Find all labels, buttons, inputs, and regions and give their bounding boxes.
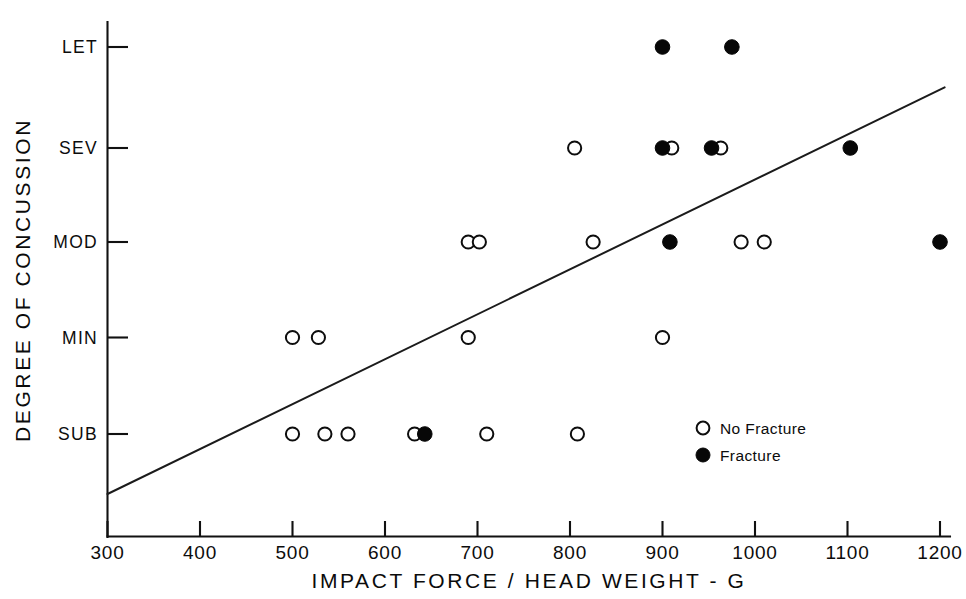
chart-legend: No FractureFracture <box>696 420 806 464</box>
data-point-no-fracture <box>318 427 331 440</box>
x-axis-title: IMPACT FORCE / HEAD WEIGHT - G <box>311 569 746 592</box>
y-axis-ticks <box>108 47 129 434</box>
legend-marker-no-fracture <box>697 422 710 435</box>
x-tick-label-600: 600 <box>368 542 402 563</box>
data-point-fracture <box>663 235 678 250</box>
data-point-no-fracture <box>286 427 299 440</box>
data-point-no-fracture <box>480 427 493 440</box>
y-axis: SUBMINMODSEVLET <box>53 22 128 537</box>
y-axis-tick-labels: SUBMINMODSEVLET <box>53 37 98 444</box>
x-tick-label-700: 700 <box>460 542 494 563</box>
scatter-chart: SUBMINMODSEVLET 300400500600700800900100… <box>0 0 966 599</box>
plot-canvas: SUBMINMODSEVLET 300400500600700800900100… <box>0 0 966 599</box>
x-tick-label-300: 300 <box>90 542 124 563</box>
data-point-no-fracture <box>286 331 299 344</box>
x-axis-ticks <box>108 521 941 537</box>
data-point-no-fracture <box>312 331 325 344</box>
data-point-no-fracture <box>656 331 669 344</box>
y-tick-label-min: MIN <box>62 328 98 348</box>
y-axis-title: DEGREE OF CONCUSSION <box>11 118 34 442</box>
data-point-fracture <box>655 40 670 55</box>
data-point-no-fracture <box>587 235 600 248</box>
data-point-no-fracture <box>341 427 354 440</box>
data-point-fracture <box>655 141 670 156</box>
data-point-fracture <box>704 141 719 156</box>
data-point-no-fracture <box>473 235 486 248</box>
y-tick-label-mod: MOD <box>53 232 98 252</box>
data-point-fracture <box>933 235 948 250</box>
series-no-fracture <box>286 141 771 440</box>
data-point-no-fracture <box>758 235 771 248</box>
y-tick-label-let: LET <box>62 37 98 57</box>
data-point-no-fracture <box>735 235 748 248</box>
x-tick-label-500: 500 <box>275 542 309 563</box>
y-tick-label-sub: SUB <box>58 424 98 444</box>
regression-line <box>108 87 945 494</box>
data-point-no-fracture <box>571 427 584 440</box>
series-fracture <box>417 40 947 442</box>
data-point-fracture <box>417 427 432 442</box>
legend-marker-fracture <box>696 448 710 462</box>
legend-label-fracture: Fracture <box>720 447 781 464</box>
x-tick-label-400: 400 <box>183 542 217 563</box>
x-tick-label-1000: 1000 <box>732 542 777 563</box>
legend-label-no-fracture: No Fracture <box>720 420 806 437</box>
data-point-fracture <box>725 40 740 55</box>
data-point-no-fracture <box>568 141 581 154</box>
data-point-no-fracture <box>462 331 475 344</box>
x-tick-label-800: 800 <box>553 542 587 563</box>
x-axis: 300400500600700800900100011001200 <box>90 521 962 563</box>
data-point-fracture <box>843 141 858 156</box>
trend-line <box>108 87 945 494</box>
x-tick-label-1100: 1100 <box>825 542 869 563</box>
x-tick-label-1200: 1200 <box>917 542 962 563</box>
x-tick-label-900: 900 <box>645 542 679 563</box>
x-axis-tick-labels: 300400500600700800900100011001200 <box>90 542 962 563</box>
y-tick-label-sev: SEV <box>59 138 98 158</box>
